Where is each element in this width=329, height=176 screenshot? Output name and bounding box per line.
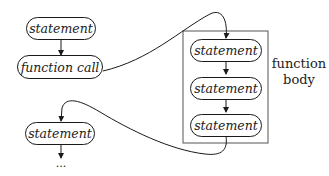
function-body-caption-line1: function [270,56,328,72]
function-body-caption: function body [270,56,328,88]
continuation-ellipsis: ... [46,156,76,172]
body-statement-node-3: statement [190,114,262,137]
body-statement-node-2: statement [190,77,262,100]
body-statement-node-1: statement [190,39,262,62]
function-call-node: function call [17,55,103,79]
function-body-caption-line2: body [270,72,328,88]
return-statement-node: statement [25,122,95,145]
caller-statement-node: statement [26,17,96,40]
